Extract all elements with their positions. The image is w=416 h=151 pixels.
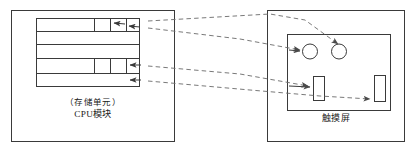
cpu-module-box xyxy=(12,11,175,142)
memory-row-1-cells xyxy=(95,19,127,32)
cpu-module-label: CPU模块 xyxy=(11,109,175,119)
connector-link-2 xyxy=(148,28,300,50)
cpu-storage-unit-label: （存储单元） xyxy=(11,97,175,107)
touch-screen-label: 触摸屏 xyxy=(267,113,405,123)
screen-widget-arrows xyxy=(289,50,310,87)
mapping-connectors xyxy=(148,14,370,99)
screen-widget-slider-2[interactable] xyxy=(375,76,386,102)
touch-screen-display xyxy=(288,35,391,111)
screen-widget-circle-2[interactable] xyxy=(332,44,347,59)
diagram-canvas: （存储单元） CPU模块 触摸屏 xyxy=(0,0,416,151)
memory-row-4-cells xyxy=(95,59,127,74)
memory-grid xyxy=(37,19,142,87)
connector-link-4 xyxy=(148,81,370,99)
screen-widget-circle-1[interactable] xyxy=(303,44,318,59)
screen-widget-slider-1[interactable] xyxy=(314,77,325,101)
diagram-vector-layer xyxy=(0,0,416,151)
